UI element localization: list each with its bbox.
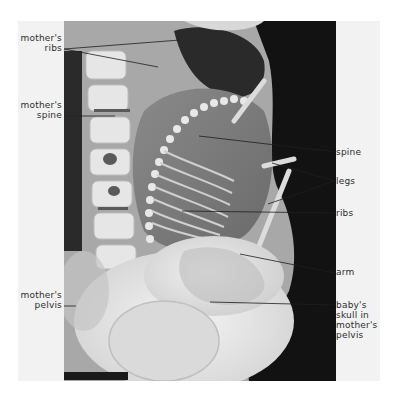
scale-bar bbox=[64, 372, 128, 380]
label-ribs: ribs bbox=[336, 208, 353, 218]
label-babys-skull: baby's skull in mother's pelvis bbox=[336, 300, 378, 340]
label-arm: arm bbox=[336, 267, 354, 277]
xray-image bbox=[64, 21, 336, 381]
label-mothers-ribs: mother's ribs bbox=[20, 33, 62, 53]
label-spine: spine bbox=[336, 147, 361, 157]
label-legs: legs bbox=[336, 176, 355, 186]
label-mothers-spine: mother's spine bbox=[20, 100, 62, 120]
label-mothers-pelvis: mother's pelvis bbox=[20, 290, 62, 310]
xray-illustration bbox=[64, 21, 336, 381]
